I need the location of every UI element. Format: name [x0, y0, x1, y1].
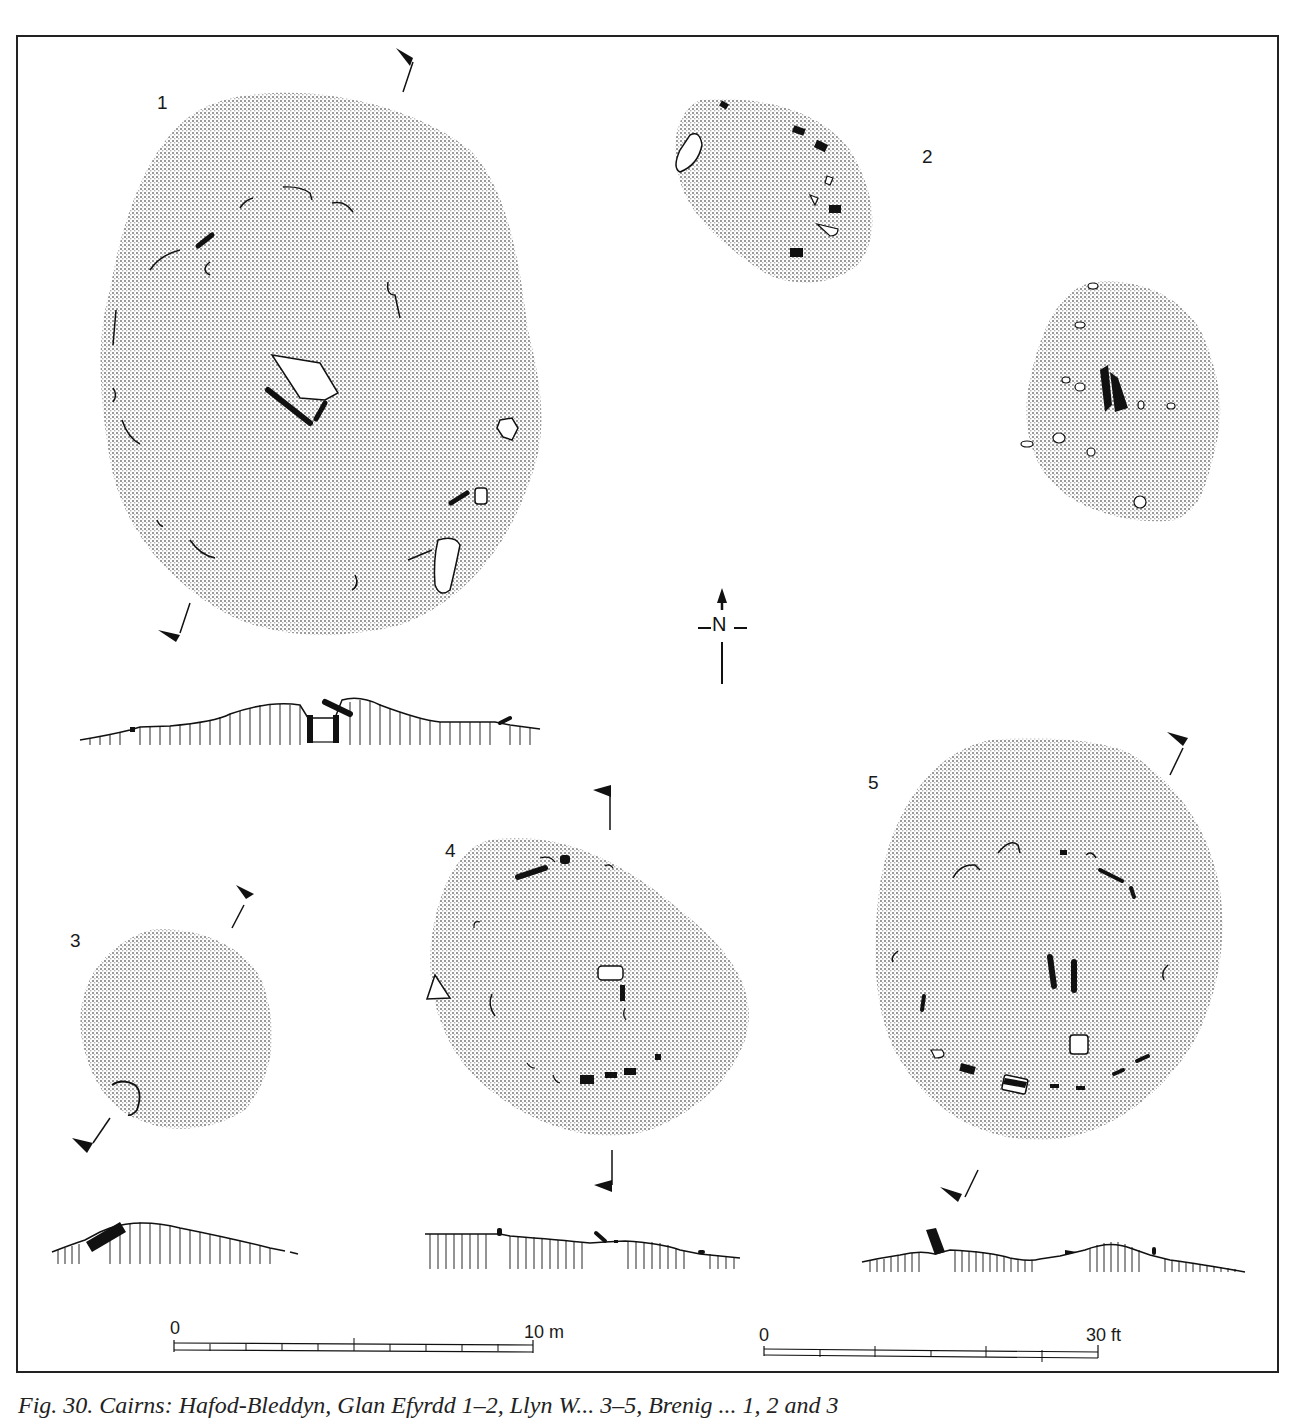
north-label: N: [712, 613, 726, 636]
plan-label-1: 1: [157, 92, 168, 114]
plan-label-2: 2: [922, 146, 933, 168]
scale-metric-start: 0: [170, 1318, 180, 1339]
plan-label-3: 3: [70, 930, 81, 952]
plan-label-4: 4: [445, 840, 456, 862]
scale-imperial-start: 0: [759, 1325, 769, 1346]
figure-caption: Fig. 30. Cairns: Hafod-Bleddyn, Glan Efy…: [18, 1392, 839, 1419]
north-arrow: N: [697, 585, 747, 685]
scale-metric-end: 10 m: [524, 1322, 564, 1343]
scale-imperial-end: 30 ft: [1086, 1325, 1121, 1346]
plan-label-5: 5: [868, 772, 879, 794]
figure-frame: [16, 35, 1279, 1373]
